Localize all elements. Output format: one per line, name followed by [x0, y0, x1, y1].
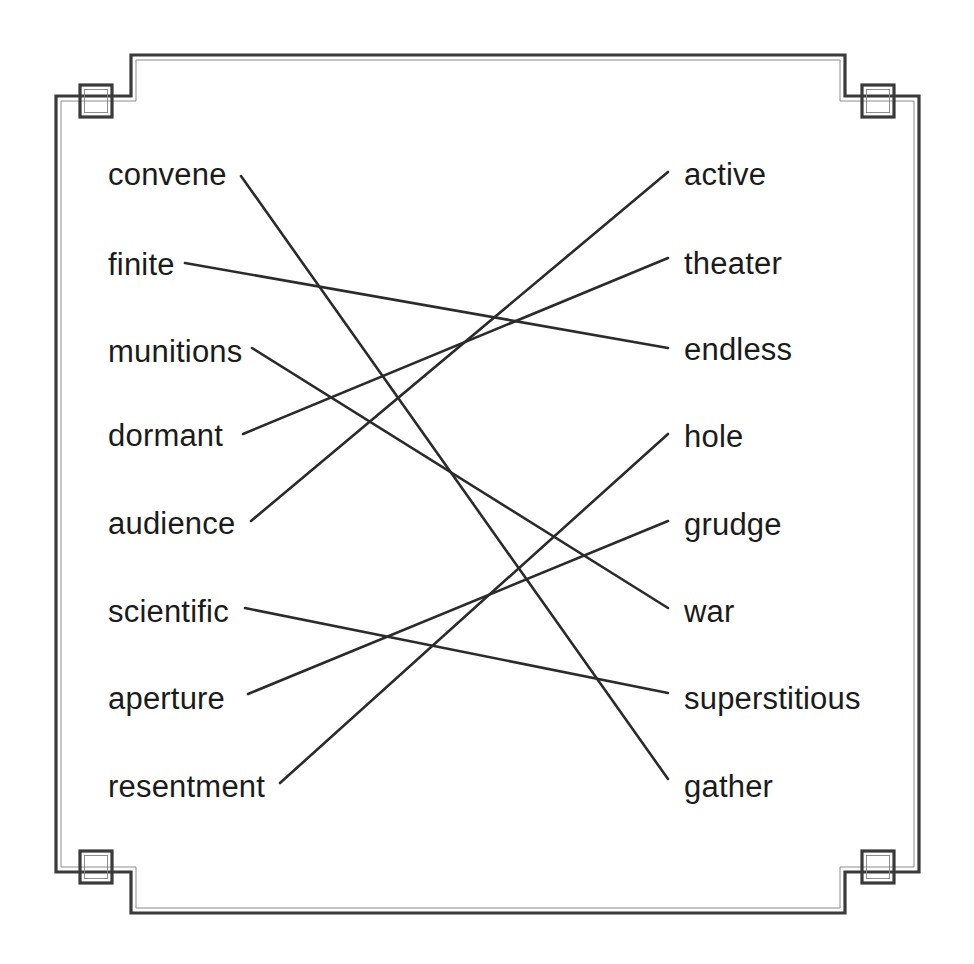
right-word-war[interactable]: war: [684, 596, 735, 627]
right-word-grudge[interactable]: grudge: [684, 509, 782, 540]
left-word-convene[interactable]: convene: [108, 159, 227, 190]
left-word-dormant[interactable]: dormant: [108, 420, 223, 451]
left-word-audience[interactable]: audience: [108, 508, 235, 539]
right-word-hole[interactable]: hole: [684, 421, 743, 452]
right-word-endless[interactable]: endless: [684, 334, 792, 365]
right-word-superstitious[interactable]: superstitious: [684, 683, 861, 714]
connector-audience-to-active[interactable]: [251, 172, 668, 521]
connector-finite-to-endless[interactable]: [185, 263, 668, 348]
right-word-theater[interactable]: theater: [684, 248, 782, 279]
connector-convene-to-gather[interactable]: [241, 176, 668, 779]
connector-scientific-to-superstitious[interactable]: [245, 608, 668, 693]
connector-lines: [185, 172, 668, 783]
right-word-active[interactable]: active: [684, 159, 766, 190]
matching-puzzle-canvas: convenefinitemunitionsdormantaudiencesci…: [0, 0, 974, 964]
right-word-gather[interactable]: gather: [684, 771, 773, 802]
left-word-munitions[interactable]: munitions: [108, 336, 242, 367]
connector-munitions-to-war[interactable]: [252, 348, 668, 608]
connector-aperture-to-grudge[interactable]: [248, 521, 668, 694]
left-word-aperture[interactable]: aperture: [108, 683, 225, 714]
left-word-finite[interactable]: finite: [108, 249, 175, 280]
puzzle-graphics: [0, 0, 974, 964]
left-word-scientific[interactable]: scientific: [108, 596, 229, 627]
left-word-resentment[interactable]: resentment: [108, 771, 265, 802]
